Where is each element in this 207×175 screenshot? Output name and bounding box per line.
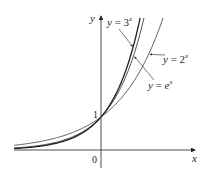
y-axis-label: y: [89, 12, 95, 24]
annotation-label-1: y = ex: [147, 78, 174, 91]
y-intercept-tick-label: 1: [93, 109, 98, 120]
annotation-label-0: y = 3x: [106, 15, 133, 28]
curve-y-3-x: [14, 18, 140, 148]
annotations: y = 3xy = exy = 2x: [106, 15, 189, 91]
origin-tick-label: 0: [92, 154, 97, 165]
x-axis-label: x: [191, 152, 197, 164]
curve-y-e-x: [14, 18, 144, 148]
curve-y-2-x: [14, 18, 163, 145]
curves: [14, 18, 163, 148]
axes: x y 0 1: [14, 12, 197, 168]
exponential-functions-chart: x y 0 1 y = 3xy = exy = 2x: [0, 0, 207, 175]
annotation-arrow-1: [135, 57, 154, 80]
annotation-label-2: y = 2x: [162, 52, 189, 65]
annotation-arrow-0: [119, 29, 133, 46]
